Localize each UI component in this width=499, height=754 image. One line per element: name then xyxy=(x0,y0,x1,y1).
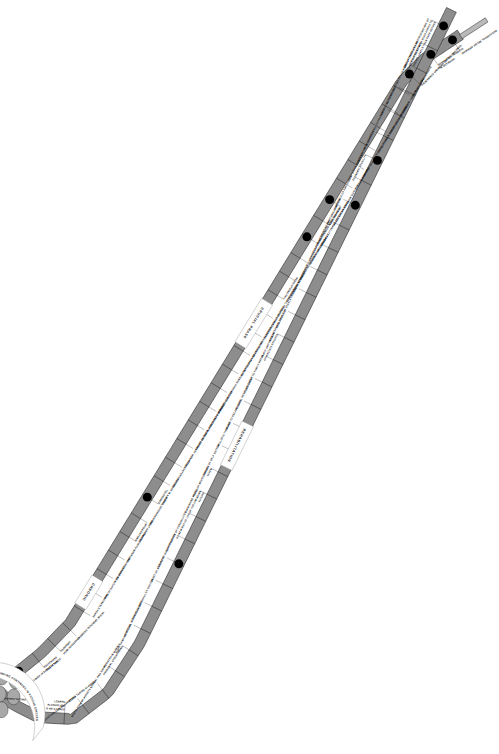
milestone-node xyxy=(143,493,152,502)
milestone-node xyxy=(439,21,448,30)
milestone-node xyxy=(174,559,183,568)
curve-canvas: OCCASIONAL RELIEF DRINKINGINCREASE INALC… xyxy=(0,0,499,754)
vicious-circle-bubble xyxy=(7,689,20,705)
milestone-node xyxy=(426,50,435,59)
milestone-node xyxy=(325,195,334,204)
jellinek-curve-diagram: OCCASIONAL RELIEF DRINKINGINCREASE INALC… xyxy=(0,0,499,754)
milestone-node xyxy=(351,201,360,210)
milestone-node xyxy=(302,232,311,241)
milestone-node xyxy=(448,35,457,44)
